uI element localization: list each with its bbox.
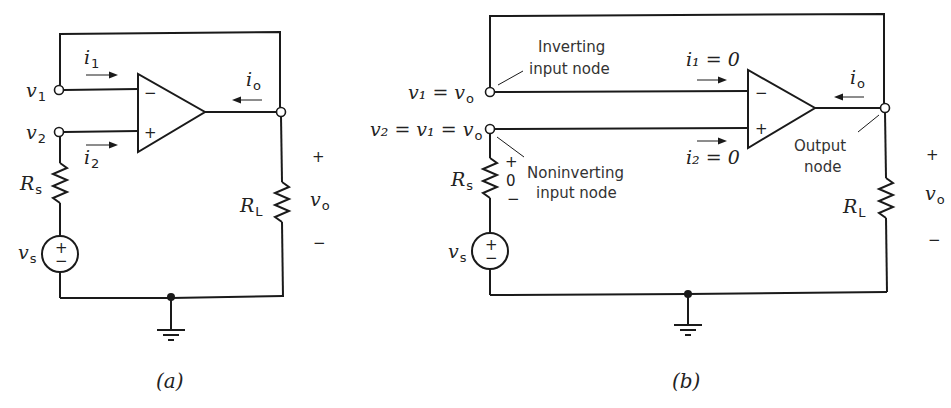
rs-zero-b: 0 — [506, 172, 516, 190]
annotation-output-1: Output — [794, 137, 846, 155]
resistor-rl-b — [879, 178, 893, 218]
label-i2-a: i2 — [84, 146, 99, 171]
output-to-rl-wire-b — [885, 112, 886, 178]
resistor-rs-a — [53, 163, 67, 203]
output-to-rl-wire-a — [281, 116, 282, 182]
caption-a: (a) — [156, 369, 184, 393]
resistor-rl-a — [275, 182, 289, 222]
label-rs-a: Rs — [19, 172, 42, 197]
leader-inverting — [498, 71, 523, 85]
vo-plus-b: + — [926, 146, 939, 164]
label-i1-a: i1 — [84, 46, 99, 71]
label-vs-a: vs — [18, 241, 37, 266]
annotation-noninverting-2: input node — [536, 184, 617, 202]
resistor-rs-b — [483, 158, 497, 198]
label-rs-b: Rs — [450, 168, 473, 193]
noninverting-input-wire-a — [64, 131, 138, 132]
label-v1-eq-b: v₁ = vo — [408, 81, 474, 106]
arrow-i2-a — [86, 142, 118, 149]
label-vs-b: vs — [448, 240, 467, 265]
node-v2-b — [486, 125, 495, 134]
arrow-io-b — [834, 94, 864, 101]
noninverting-input-wire-b — [494, 128, 748, 129]
label-i1-eq-b: i₁ = 0 — [686, 48, 740, 70]
opamp-minus-b: − — [755, 84, 768, 102]
opamp-minus-a: − — [144, 84, 157, 102]
annotation-output-2: node — [804, 158, 841, 176]
arrow-i2-b — [697, 138, 727, 145]
node-output-a — [277, 108, 286, 117]
vo-plus-a: + — [312, 148, 325, 166]
rs-plus-b: + — [505, 153, 518, 171]
label-io-b: io — [850, 66, 865, 91]
label-i2-eq-b: i₂ = 0 — [686, 146, 740, 168]
label-vo-b: vo — [925, 182, 945, 207]
figure-b: − + + − — [370, 14, 945, 393]
annotation-inverting-2: input node — [529, 60, 610, 78]
vo-minus-a: − — [313, 234, 326, 252]
annotation-noninverting-1: Noninverting — [527, 164, 624, 182]
source-minus-a: − — [55, 252, 68, 270]
label-vo-a: vo — [310, 188, 330, 213]
rs-minus-b: − — [507, 190, 520, 208]
figure-a: − + + − — [18, 32, 330, 393]
label-v2-eq-b: v₂ = v₁ = vo — [370, 118, 482, 143]
node-output-b — [881, 104, 890, 113]
inverting-input-wire-b — [494, 91, 748, 92]
annotation-inverting-1: Inverting — [538, 38, 605, 56]
caption-b: (b) — [672, 369, 700, 393]
vo-minus-b: − — [928, 231, 941, 249]
inverting-input-wire-a — [64, 89, 138, 90]
arrow-i1-b — [697, 77, 727, 84]
opamp-plus-a: + — [144, 124, 157, 142]
label-rl-a: RL — [239, 194, 263, 219]
source-minus-b: − — [485, 249, 498, 267]
arrow-i1-a — [86, 72, 118, 79]
ground-icon-a — [157, 330, 185, 340]
node-v2-a — [55, 128, 64, 137]
opamp-plus-b: + — [755, 120, 768, 138]
node-v1-a — [55, 86, 64, 95]
arrow-io-a — [232, 97, 262, 104]
leader-output — [858, 115, 879, 132]
label-io-a: io — [246, 68, 261, 93]
label-v1-a: v1 — [26, 79, 46, 104]
label-rl-b: RL — [842, 195, 866, 220]
node-v1-b — [486, 88, 495, 97]
label-v2-a: v2 — [26, 121, 46, 146]
ground-icon-b — [674, 325, 702, 335]
